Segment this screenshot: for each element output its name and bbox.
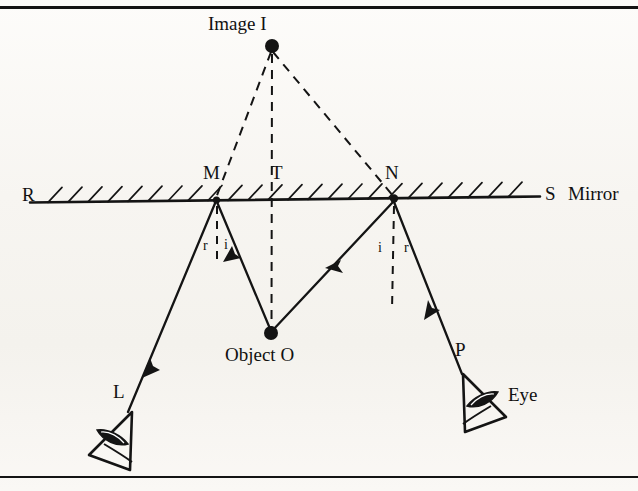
mirror-left-end-label: R: [22, 185, 35, 204]
mirror-name-label: Mirror: [568, 184, 619, 203]
angle-label-m-right: i: [224, 238, 228, 252]
mirror-line: [30, 197, 540, 203]
eye-left: [89, 412, 132, 470]
angle-label-n-left: i: [378, 241, 382, 255]
object-label: Object O: [225, 345, 294, 364]
ray-arrowhead-ml: [142, 358, 160, 378]
virtual-ray-image-to-n: [273, 52, 394, 197]
image-point-dot: [265, 39, 279, 53]
point-m-dot: [213, 196, 220, 203]
point-m-label: M: [203, 163, 220, 182]
virtual-ray-image-to-m: [216, 52, 271, 198]
point-n-label: N: [385, 163, 399, 182]
ray-arrowhead-np: [424, 300, 440, 320]
point-l-label: L: [113, 382, 125, 401]
ray-diagram: [0, 0, 638, 491]
point-p-label: P: [455, 340, 466, 359]
point-t-label: T: [271, 163, 283, 182]
ray-m-to-l: [128, 201, 216, 412]
figure-page: Image I Object O R S Mirror M T N L P Ey…: [0, 0, 638, 491]
point-n-dot: [390, 194, 398, 202]
angle-label-n-right: r: [404, 241, 409, 255]
object-point-dot: [264, 326, 278, 340]
image-object-axis: [272, 54, 273, 330]
ray-o-to-m: [217, 202, 271, 331]
normal-at-n: [392, 206, 394, 310]
ray-n-to-p: [394, 202, 462, 374]
eye-right-label: Eye: [508, 385, 538, 404]
eye-right: [463, 374, 506, 432]
mirror-right-end-label: S: [545, 184, 556, 203]
image-label: Image I: [208, 14, 267, 33]
angle-label-m-left: r: [203, 239, 208, 253]
